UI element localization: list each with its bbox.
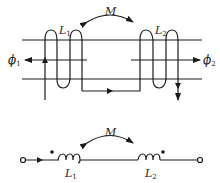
flux-phi2-label: ϕ2 xyxy=(203,53,216,68)
terminal-right xyxy=(198,158,203,163)
output-direction-arrow xyxy=(175,83,181,89)
input-current-arrow xyxy=(37,157,43,163)
inductor-l2-label: L2 xyxy=(144,167,157,181)
current-direction-arrow xyxy=(107,88,113,94)
flux-phi1-label: ϕ1 xyxy=(8,53,21,68)
mutual-inductance-diagram: M L1 L2 ϕ1 ϕ2 M L1 L2 xyxy=(0,0,220,183)
equivalent-circuit xyxy=(21,136,203,164)
inductor-l1-label: L1 xyxy=(64,167,77,181)
core-diagram xyxy=(22,15,202,100)
terminal-left xyxy=(21,158,26,163)
connecting-wire xyxy=(82,40,140,91)
inductor-l2-symbol xyxy=(138,154,160,160)
inductor-l1-symbol xyxy=(58,154,80,163)
mutual-label-bottom: M xyxy=(104,126,117,139)
mutual-label-top: M xyxy=(104,5,117,18)
polarity-dot-l2 xyxy=(161,150,165,154)
polarity-dot-l1 xyxy=(50,150,54,154)
coil-l2-label: L2 xyxy=(154,24,167,38)
coil-l1-label: L1 xyxy=(58,24,71,38)
